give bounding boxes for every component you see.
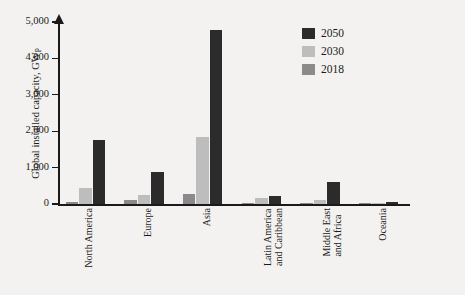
legend-label: 2030 (321, 45, 344, 57)
x-axis-label-line: and Africa (332, 208, 343, 257)
x-axis-label-rotated-text: North America (83, 208, 94, 268)
bar-2018-oceania (359, 203, 372, 204)
x-axis-line (58, 204, 410, 206)
legend-label: 2018 (321, 63, 344, 75)
x-axis-label-line: Asia (201, 208, 212, 226)
bar-2018-north-america (66, 202, 79, 204)
bar-2030-middle-east-and-africa (314, 200, 327, 204)
x-axis-label-rotated-text: Oceania (377, 208, 388, 241)
legend-swatch-icon (302, 46, 315, 57)
bar-2050-latin-america-and-caribbean (269, 196, 282, 204)
legend-label: 2050 (321, 27, 344, 39)
x-axis-label-line: North America (83, 208, 94, 268)
x-axis-label-europe: Europe (142, 208, 171, 219)
x-axis-label-rotated-text: Asia (201, 208, 212, 226)
legend-swatch-icon (302, 64, 315, 75)
legend-item-2018[interactable]: 2018 (302, 60, 344, 78)
bar-2050-middle-east-and-africa (327, 182, 340, 204)
y-axis-tick-label: 4,000 (5, 51, 49, 62)
chart-legend: 205020302018 (302, 24, 344, 78)
y-axis-tick-label: 5,000 (5, 15, 49, 26)
bar-2030-oceania (372, 203, 385, 204)
bar-2018-latin-america-and-caribbean (242, 203, 255, 204)
legend-item-2030[interactable]: 2030 (302, 42, 344, 60)
x-axis-label-north-america: North America (83, 208, 143, 219)
y-axis-tick-label: 1,000 (5, 161, 49, 172)
y-axis-tick-label: 0 (5, 197, 49, 208)
chart-page: Global installed capacity, GWP 01,0002,0… (0, 0, 465, 295)
bar-2030-asia (196, 137, 209, 204)
y-axis-tick-label: 2,000 (5, 124, 49, 135)
legend-item-2050[interactable]: 2050 (302, 24, 344, 42)
bar-2030-north-america (79, 188, 92, 204)
x-axis-label-line: Latin America (262, 208, 273, 266)
x-axis-label-rotated-text: Middle Eastand Africa (321, 208, 343, 257)
x-axis-label-rotated-text: Europe (142, 208, 153, 237)
x-axis-label-rotated-text: Latin Americaand Caribbean (262, 208, 284, 266)
bar-2050-asia (210, 30, 223, 204)
x-axis-label-asia: Asia (201, 208, 219, 219)
x-axis-label-latin-america-and-caribbean: Latin Americaand Caribbean (262, 208, 320, 230)
x-axis-label-line: and Caribbean (273, 208, 284, 266)
bar-2050-north-america (93, 140, 106, 204)
x-axis-label-line: Europe (142, 208, 153, 237)
bar-2030-latin-america-and-caribbean (255, 198, 268, 204)
x-axis-label-line: Oceania (377, 208, 388, 241)
x-axis-label-middle-east-and-africa: Middle Eastand Africa (321, 208, 370, 230)
bar-2050-europe (151, 172, 164, 204)
bar-2018-middle-east-and-africa (300, 203, 313, 204)
legend-swatch-icon (302, 28, 315, 39)
x-axis-label-line: Middle East (321, 208, 332, 257)
plot-area (58, 22, 410, 204)
x-axis-label-oceania: Oceania (377, 208, 410, 219)
bar-2018-asia (183, 194, 196, 204)
bar-2050-oceania (386, 202, 399, 204)
bar-2030-europe (138, 195, 151, 204)
y-axis-tick-label: 3,000 (5, 88, 49, 99)
bar-2018-europe (124, 200, 137, 204)
